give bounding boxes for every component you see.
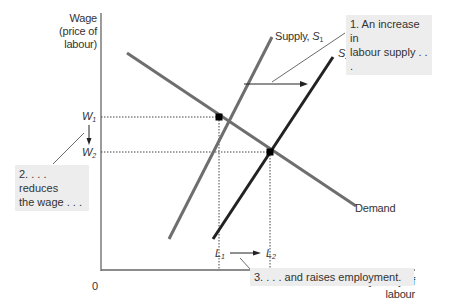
annotation-2-line1: 2. . . . reduces: [19, 167, 85, 195]
l2-subscript: 2: [272, 253, 276, 260]
y-axis-label: Wage (price of labour): [52, 12, 97, 51]
equilibrium-point-2: [267, 149, 274, 156]
x-axis-label-line2: labour: [345, 288, 415, 301]
supply-s1-label-text: Supply,: [275, 30, 312, 42]
y-axis-label-line3: labour): [52, 38, 97, 51]
w2-subscript: 2: [92, 152, 96, 159]
l1-label: L1: [215, 247, 225, 263]
annotation-1-line1: 1. An increase in: [350, 17, 428, 45]
w1-symbol: W: [82, 110, 92, 122]
annotation-3: 3. . . . and raises employment.: [250, 268, 414, 286]
annotation-3-text: 3. . . . and raises employment.: [254, 270, 410, 284]
l2-label: L2: [266, 247, 276, 263]
supply-s1-label: Supply, S1: [275, 30, 323, 46]
shift-arrowhead-icon: [300, 81, 308, 87]
wage-down-arrowhead-icon: [87, 138, 92, 145]
annotation-1: 1. An increase in labour supply . . .: [346, 15, 432, 75]
annotation-1-line2: labour supply . . .: [350, 45, 428, 73]
annotation-2-pointer: [53, 133, 84, 164]
annotation-2: 2. . . . reduces the wage . . .: [15, 165, 89, 211]
annotation-2-line2: the wage . . .: [19, 195, 85, 209]
y-axis-label-line2: (price of: [52, 25, 97, 38]
y-axis-label-line1: Wage: [52, 12, 97, 25]
w1-subscript: 1: [92, 116, 96, 123]
origin-label: 0: [92, 280, 98, 293]
w2-label: W2: [82, 146, 96, 162]
l1-subscript: 1: [221, 253, 225, 260]
w2-symbol: W: [82, 146, 92, 158]
employment-arrowhead-icon: [253, 251, 261, 256]
w1-label: W1: [82, 110, 96, 126]
demand-label: Demand: [355, 202, 395, 215]
equilibrium-point-1: [216, 114, 223, 121]
supply-s1-subscript: 1: [319, 36, 323, 43]
